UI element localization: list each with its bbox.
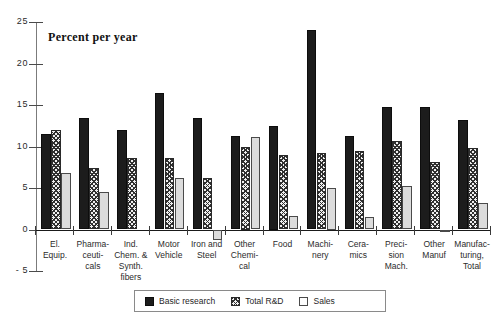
bar-rd (392, 141, 402, 230)
bar-basic (193, 118, 203, 229)
legend-item[interactable]: Sales (299, 296, 334, 306)
legend-label: Total R&D (245, 296, 283, 306)
legend-swatch-rd-icon (231, 297, 240, 306)
bar-rd (89, 168, 99, 229)
y-axis-tick-label: 0 (2, 225, 28, 234)
legend-item[interactable]: Total R&D (231, 296, 283, 306)
bar-basic (155, 93, 165, 230)
bar-basic (231, 136, 241, 230)
bar-rd (468, 148, 478, 229)
bar-sales (99, 192, 109, 229)
legend-swatch-sales-icon (299, 297, 308, 306)
bar-basic (345, 136, 355, 230)
bar-sales (61, 173, 71, 229)
x-axis-category-label: Manufac- turing, Total (449, 239, 495, 272)
y-axis-labels: 2520151050- 5 (0, 0, 28, 321)
x-axis-tick (73, 226, 74, 235)
bar-sales (327, 188, 337, 230)
bar-basic (382, 107, 392, 230)
bar-basic (117, 130, 127, 230)
plot-area (36, 22, 491, 271)
y-axis-tick-label: 10 (2, 142, 28, 151)
bar-sales (289, 216, 299, 229)
x-axis-tick (414, 226, 415, 235)
y-axis-tick-label: - 5 (2, 266, 28, 275)
x-axis-tick (149, 226, 150, 235)
x-axis-tick (490, 226, 491, 235)
bar-sales (365, 217, 375, 229)
x-axis-tick (225, 226, 226, 235)
y-axis-tick (29, 271, 43, 272)
bar-basic (269, 126, 279, 230)
bar-rd (317, 153, 327, 229)
bar-rd (203, 178, 213, 229)
bar-rd (355, 151, 365, 229)
x-axis-tick (300, 226, 301, 235)
x-axis-tick (187, 226, 188, 235)
bar-rd (165, 158, 175, 229)
legend-label: Sales (313, 296, 334, 306)
x-axis-tick (111, 226, 112, 235)
y-axis-tick-label: 5 (2, 183, 28, 192)
bar-rd (51, 130, 61, 230)
bar-sales (251, 137, 261, 230)
x-axis-tick (338, 226, 339, 235)
x-axis-tick (376, 226, 377, 235)
bar-rd (430, 162, 440, 229)
bar-basic (420, 107, 430, 230)
bar-rd (279, 155, 289, 230)
bar-sales (175, 178, 185, 229)
y-axis-tick-label: 25 (2, 17, 28, 26)
bar-rd (241, 147, 251, 230)
bar-sales (478, 203, 488, 230)
bar-sales (440, 230, 450, 233)
bar-sales (402, 186, 412, 229)
bar-basic (458, 120, 468, 230)
x-axis-tick (35, 226, 36, 235)
bar-basic (307, 30, 317, 229)
y-axis-tick-label: 15 (2, 100, 28, 109)
bar-basic (79, 118, 89, 229)
legend-swatch-basic-icon (145, 297, 154, 306)
chart-figure: Percent per year 2520151050- 5 El. Equip… (0, 0, 497, 321)
chart-legend: Basic researchTotal R&DSales (134, 290, 386, 312)
x-axis-tick (263, 226, 264, 235)
bar-rd (127, 158, 137, 229)
legend-item[interactable]: Basic research (145, 296, 215, 306)
x-axis-tick (452, 226, 453, 235)
legend-label: Basic research (159, 296, 215, 306)
y-axis-tick-label: 20 (2, 59, 28, 68)
bar-basic (41, 134, 51, 229)
